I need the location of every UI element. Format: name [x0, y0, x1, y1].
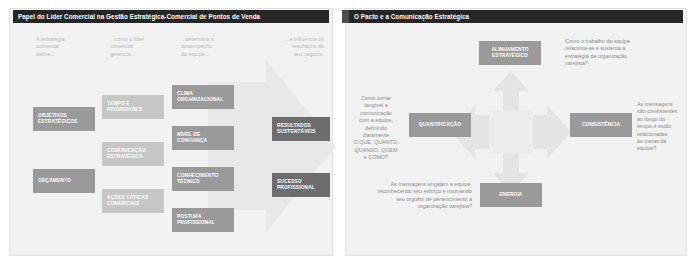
box-nivel-de-confianca[interactable]: NÍVEL DE CONFIANÇA [172, 126, 234, 150]
right-caption-energia: As mensagens engajam a equipe, reconhece… [366, 181, 472, 211]
right-caption-quantificacao: Como tornar tangível a comunicação com a… [347, 95, 405, 162]
left-caption-4: ...e influencia os resultados do seu neg… [256, 36, 324, 58]
right-panel-title: O Pacto e a Comunicação Estratégica [349, 13, 469, 20]
box-acoes-taticas-comerciais[interactable]: AÇÕES TÁTICAS COMERCIAIS [102, 189, 164, 213]
box-conhecimento-tecnico[interactable]: CONHECIMENTO TÉCNICO [172, 167, 234, 191]
left-caption-1: A estratégia comercial define... [36, 36, 96, 58]
box-quantificacao[interactable]: QUANTIFICAÇÃO [409, 113, 471, 137]
slide-canvas: Papel do Líder Comercial na Gestão Estra… [0, 0, 695, 272]
right-panel-title-tab [342, 10, 349, 23]
box-clima-organizacional[interactable]: CLIMA ORGANIZACIONAL [172, 85, 234, 109]
right-caption-consistencia: As mensagens são consistentes ao longo d… [637, 101, 689, 153]
box-objetivos-estrategicos[interactable]: OBJETIVOS ESTRATÉGICOS [33, 107, 95, 131]
box-orcamento[interactable]: ORÇAMENTO [33, 169, 95, 193]
box-alinhamento-estrategico[interactable]: ALINHAMENTO ESTRATÉGICO [479, 41, 541, 65]
right-caption-alinhamento: Como o trabalho da equipe relaciona-se e… [565, 38, 641, 68]
box-postura-profissional[interactable]: POSTURA PROFISSIONAL [172, 208, 234, 232]
right-panel-title-bar: O Pacto e a Comunicação Estratégica [349, 10, 683, 23]
box-consistencia[interactable]: CONSISTÊNCIA [570, 113, 632, 137]
left-caption-2: ...como o líder comercial gerencia... [110, 36, 172, 58]
box-tempo-e-prioridades[interactable]: TEMPO E PRIORIDADES [102, 95, 164, 119]
left-panel-title-bar: Papel do Líder Comercial na Gestão Estra… [13, 10, 329, 23]
box-energia[interactable]: ENERGIA [480, 183, 542, 207]
box-resultados-sustentaveis[interactable]: RESULTADOS SUSTENTÁVEIS [272, 117, 330, 141]
box-sucesso-profissional[interactable]: SUCESSO PROFISSIONAL [272, 173, 330, 197]
left-panel-title: Papel do Líder Comercial na Gestão Estra… [13, 13, 260, 20]
left-caption-3: ...determina o desempenho da equipe... [181, 36, 243, 58]
box-comunicacao-estrategica[interactable]: COMUNICAÇÃO ESTRATÉGICA [102, 142, 164, 166]
